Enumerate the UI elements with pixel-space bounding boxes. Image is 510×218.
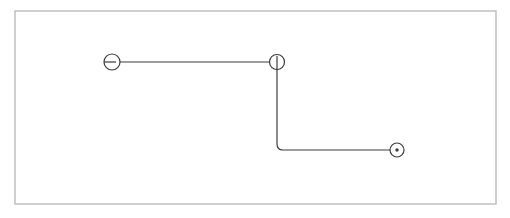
source-port-node[interactable]: [104, 54, 120, 70]
diagram-frame: [15, 11, 496, 204]
target-terminal-center-dot-icon: [395, 148, 398, 151]
junction-node[interactable]: [270, 55, 285, 71]
target-terminal-node[interactable]: [390, 143, 404, 157]
connector-diagram: [0, 0, 510, 218]
diagram-canvas: [0, 0, 510, 218]
